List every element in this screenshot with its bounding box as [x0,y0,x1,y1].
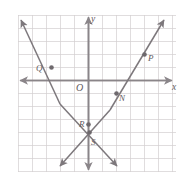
origin-label: O [76,82,83,93]
point-label-P: P [147,53,154,63]
coordinate-plane-figure: Q P N R S O x y [0,0,193,189]
point-marker-S [87,130,92,135]
point-marker-Q [49,65,54,70]
point-label-N: N [118,93,126,103]
point-marker-P [142,52,147,57]
line-RP [60,20,164,166]
x-axis-label: x [171,82,177,92]
point-marker-R [86,122,91,127]
y-axis-label: y [90,14,96,24]
point-label-R: R [78,119,85,129]
point-label-S: S [91,137,96,147]
graph-canvas: Q P N R S O x y [0,0,193,189]
point-label-Q: Q [36,63,43,73]
